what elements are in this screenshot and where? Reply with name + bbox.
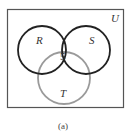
venn-diagram: U R S T 5 (a)	[0, 0, 129, 134]
set-r-label: R	[35, 34, 43, 46]
set-t-label: T	[60, 87, 67, 99]
set-s-label: S	[89, 34, 95, 46]
set-s-circle	[62, 26, 110, 74]
universe-label: U	[111, 12, 120, 24]
figure-caption: (a)	[58, 121, 68, 131]
region-rst-value: 5	[60, 50, 66, 62]
